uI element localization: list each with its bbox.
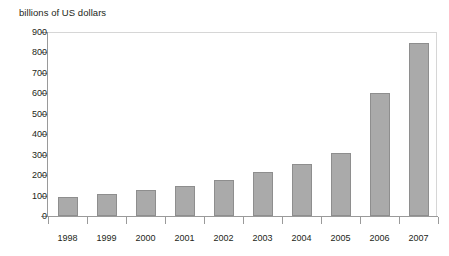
x-tick-mark bbox=[204, 217, 205, 224]
x-tick-label-2004: 2004 bbox=[291, 233, 311, 243]
bar-slot bbox=[243, 32, 282, 216]
x-tick-mark bbox=[438, 217, 439, 224]
x-tick-label-1999: 1999 bbox=[96, 233, 116, 243]
bar-2007[interactable] bbox=[409, 43, 429, 216]
bars-layer bbox=[48, 32, 438, 216]
y-tick-label: 600 bbox=[13, 88, 47, 98]
x-tick-label-2007: 2007 bbox=[408, 233, 428, 243]
y-tick-label: 900 bbox=[13, 27, 47, 37]
x-tick-label-2000: 2000 bbox=[135, 233, 155, 243]
bar-2000[interactable] bbox=[136, 190, 156, 216]
x-tick-mark bbox=[165, 217, 166, 224]
bar-2006[interactable] bbox=[370, 93, 390, 216]
bar-slot bbox=[165, 32, 204, 216]
bar-1998[interactable] bbox=[58, 197, 78, 216]
bar-slot bbox=[87, 32, 126, 216]
x-tick-mark bbox=[87, 217, 88, 224]
bar-slot bbox=[360, 32, 399, 216]
y-tick-label: 800 bbox=[13, 47, 47, 57]
x-axis: 1998199920002001200220032004200520062007 bbox=[48, 217, 438, 256]
bar-slot bbox=[126, 32, 165, 216]
bar-slot bbox=[204, 32, 243, 216]
bar-2003[interactable] bbox=[253, 172, 273, 216]
bar-2002[interactable] bbox=[214, 180, 234, 216]
x-tick-mark bbox=[399, 217, 400, 224]
y-tick-label: 500 bbox=[13, 109, 47, 119]
y-tick-label: 200 bbox=[13, 170, 47, 180]
bar-chart: billions of US dollars 90080070060050040… bbox=[0, 0, 449, 256]
bar-slot bbox=[321, 32, 360, 216]
bar-1999[interactable] bbox=[97, 194, 117, 216]
y-tick-label: 400 bbox=[13, 129, 47, 139]
x-tick-label-2001: 2001 bbox=[174, 233, 194, 243]
y-axis: 9008007006005004003002001000 bbox=[0, 0, 47, 256]
bar-slot bbox=[282, 32, 321, 216]
x-tick-mark bbox=[48, 217, 49, 224]
x-tick-mark bbox=[321, 217, 322, 224]
x-tick-label-2005: 2005 bbox=[330, 233, 350, 243]
bar-2005[interactable] bbox=[331, 153, 351, 216]
y-tick-label: 0 bbox=[13, 211, 47, 221]
bar-slot bbox=[48, 32, 87, 216]
bar-2001[interactable] bbox=[175, 186, 195, 216]
bar-slot bbox=[399, 32, 438, 216]
y-tick-label: 700 bbox=[13, 68, 47, 78]
x-tick-label-1998: 1998 bbox=[57, 233, 77, 243]
x-tick-mark bbox=[126, 217, 127, 224]
x-tick-mark bbox=[243, 217, 244, 224]
x-tick-mark bbox=[360, 217, 361, 224]
x-tick-label-2003: 2003 bbox=[252, 233, 272, 243]
y-tick-label: 300 bbox=[13, 150, 47, 160]
bar-2004[interactable] bbox=[292, 164, 312, 216]
x-tick-label-2002: 2002 bbox=[213, 233, 233, 243]
x-tick-mark bbox=[282, 217, 283, 224]
x-tick-label-2006: 2006 bbox=[369, 233, 389, 243]
y-tick-label: 100 bbox=[13, 191, 47, 201]
